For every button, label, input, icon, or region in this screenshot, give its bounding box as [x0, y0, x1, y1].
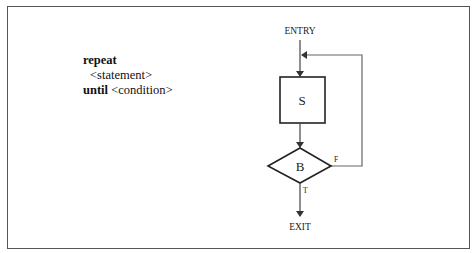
entry-label: ENTRY [284, 26, 315, 36]
exit-label: EXIT [289, 222, 311, 232]
false-branch-label: F [334, 155, 338, 164]
statement-label: S [298, 93, 305, 108]
condition-label: B [296, 159, 305, 174]
flowchart: ENTRY S B F T EXIT [0, 0, 475, 253]
true-branch-label: T [303, 186, 308, 195]
